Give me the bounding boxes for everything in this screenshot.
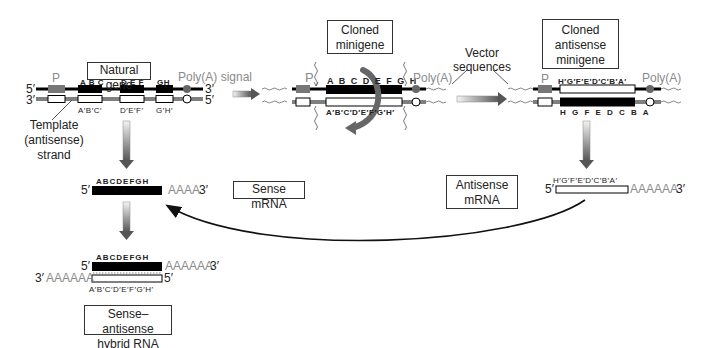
hybrid-bottom-labels: A′B′C′D′E′F′G′H′ [89,285,153,294]
sense-mrna-5-prime: 5′ [81,183,90,197]
sense-mrna-title: Sense mRNA [233,181,305,199]
minigene-polya-label: Poly(A) [413,71,452,85]
hybrid-bottom-tail: AAAAAA [46,271,94,285]
sense-mrna-3-prime: 3′ [199,183,208,197]
arrow-to-antisense-minigene [457,92,507,106]
arrow-sense-mrna-to-hybrid [119,202,134,240]
antisense-mrna-tail: AAAAAA [630,182,678,196]
exon-label-def-prime: D′E′F′ [120,106,144,115]
sense-mrna-tail: AAAA [168,183,200,197]
antisense-bottom-labels: H G F E D C B A [560,108,651,117]
antisense-mrna-3-prime: 3′ [676,182,685,196]
cloned-minigene-title: Cloned minigene [327,20,393,54]
cloned-antisense-minigene-title: Cloned antisense minigene [542,19,619,69]
sense-mrna-bar [92,186,162,195]
exon-label-gh-prime: G′H′ [156,106,173,115]
hybrid-top-3-prime: 3′ [210,259,219,273]
antisense-top-labels: H′G′F′E′D′C′B′A′ [558,77,627,86]
minigene-top-labels: A B C D E F G H [327,76,418,86]
antisense-mrna-bar [556,186,628,193]
arrow-antisense-gene-to-mrna [579,121,594,169]
bottom-3-prime: 3′ [26,93,35,107]
hybrid-top-labels: ABCDEFGH [96,253,149,262]
exon-label-abc: A B C [80,78,104,87]
antisense-polya-label: Poly(A) [642,71,681,85]
antisense-mrna-title: Antisense mRNA [446,175,518,209]
template-strand-label: Template (antisense) strand [24,118,84,163]
exon-label-gh: GH [157,78,170,87]
hybrid-bottom-3-prime: 3′ [35,271,44,285]
bottom-5-prime: 5′ [205,93,214,107]
vector-sequences-label: Vector sequences [452,46,512,74]
antisense-minigene-diagram [508,85,681,107]
antisense-mrna-5-prime: 5′ [545,182,554,196]
hybrid-title: Sense–antisense hybrid RNA [84,305,172,335]
exon-label-def: D E F [121,78,144,87]
minigene-promoter-label: P [305,70,314,85]
arrow-to-minigene [233,88,260,100]
exon-label-abc-prime: A′B′C′ [78,106,102,115]
sense-mrna-labels: ABCDEFGH [96,177,149,186]
antisense-promoter-label: P [541,72,549,86]
promoter-label: P [52,71,60,85]
arrow-gene-to-sense-mrna [119,121,134,169]
hybridization-arrow [168,200,585,241]
polya-signal-label: Poly(A) signal [178,70,252,84]
antisense-mrna-labels: H′G′F′E′D′C′B′A′ [553,176,617,185]
hybrid-bottom-5-prime: 5′ [164,271,173,285]
minigene-bottom-labels: A′B′C′D′E′F′G′H′ [326,108,395,117]
